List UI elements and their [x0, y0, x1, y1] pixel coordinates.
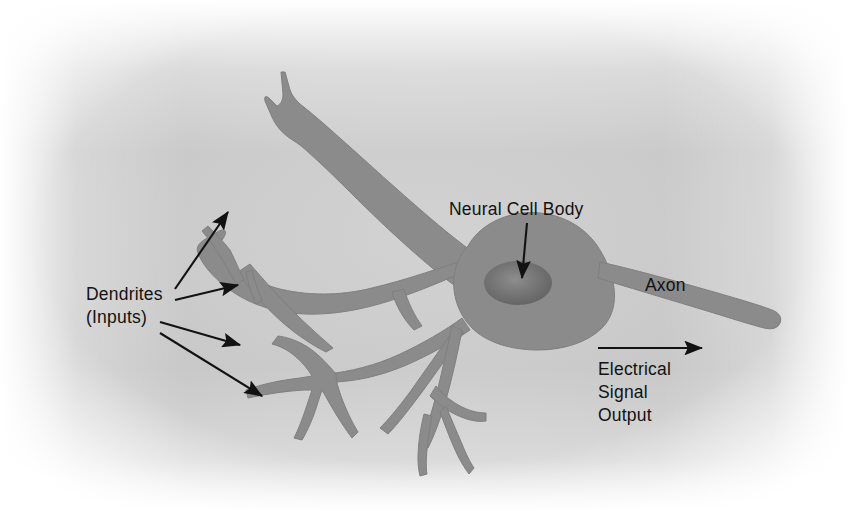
- neuron-diagram-svg: Dendrites (Inputs) Neural Cell Body Axon…: [0, 0, 848, 511]
- label-dendrites-line1: Dendrites: [86, 284, 163, 304]
- neuron-diagram-figure: Dendrites (Inputs) Neural Cell Body Axon…: [0, 0, 848, 511]
- label-dendrites-line2: (Inputs): [86, 307, 147, 327]
- label-neural-cell-body: Neural Cell Body: [449, 199, 584, 219]
- label-signal-line1: Electrical: [598, 359, 671, 379]
- nucleus: [484, 261, 552, 305]
- label-signal-line3: Output: [598, 405, 652, 425]
- label-signal-line2: Signal: [598, 382, 648, 402]
- label-axon: Axon: [645, 275, 686, 295]
